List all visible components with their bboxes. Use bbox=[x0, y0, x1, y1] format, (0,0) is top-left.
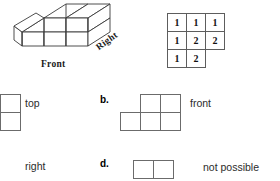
mini-grid-cell-blank bbox=[120, 94, 141, 113]
plan-cell-empty bbox=[205, 49, 225, 68]
mini-grid-cell bbox=[140, 94, 161, 113]
mini-grid-cell bbox=[133, 160, 154, 179]
plan-cell: 2 bbox=[205, 31, 225, 50]
mini-grid-cell bbox=[153, 160, 174, 179]
plan-cell: 2 bbox=[186, 31, 206, 50]
base-plan-number-grid: 11112212 bbox=[167, 13, 225, 68]
option-b-grid[interactable] bbox=[120, 94, 181, 131]
option-a-label[interactable]: top bbox=[25, 97, 40, 109]
mini-grid-row bbox=[0, 112, 21, 131]
plan-row: 111 bbox=[167, 13, 225, 32]
isometric-cube-stack-figure: Front Right bbox=[8, 2, 138, 64]
mini-grid-row bbox=[120, 94, 181, 113]
option-a-grid[interactable] bbox=[0, 94, 21, 131]
option-d-marker: d. bbox=[100, 158, 109, 169]
plan-cell: 1 bbox=[167, 31, 187, 50]
mini-grid-cell bbox=[120, 112, 141, 131]
mini-grid-row bbox=[120, 112, 181, 131]
plan-cell: 1 bbox=[167, 49, 187, 68]
plan-cell: 1 bbox=[186, 13, 206, 32]
plan-row: 122 bbox=[167, 31, 225, 50]
mini-grid-cell bbox=[0, 94, 21, 113]
mini-grid-cell bbox=[160, 112, 181, 131]
mini-grid-cell bbox=[0, 112, 21, 131]
option-d-grid[interactable] bbox=[133, 160, 174, 179]
option-c-label[interactable]: right bbox=[25, 160, 45, 172]
option-b-marker: b. bbox=[100, 94, 109, 105]
mini-grid-row bbox=[133, 160, 174, 179]
option-d-label[interactable]: not possible bbox=[203, 161, 259, 173]
plan-cell: 1 bbox=[167, 13, 187, 32]
option-b-label[interactable]: front bbox=[190, 97, 211, 109]
worksheet-page: Front Right 11112212 top b. front right … bbox=[0, 0, 280, 181]
plan-cell: 1 bbox=[205, 13, 225, 32]
mini-grid-row bbox=[0, 94, 21, 113]
mini-grid-cell bbox=[160, 94, 181, 113]
mini-grid-cell bbox=[140, 112, 161, 131]
front-face-label: Front bbox=[41, 59, 66, 69]
plan-row: 12 bbox=[167, 49, 225, 68]
plan-cell: 2 bbox=[186, 49, 206, 68]
